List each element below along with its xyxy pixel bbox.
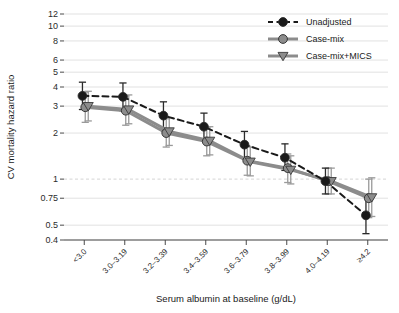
data-point-marker xyxy=(362,211,371,220)
y-tick-label: 3 xyxy=(53,101,58,111)
data-point-marker xyxy=(119,92,128,101)
y-tick-label: 8 xyxy=(53,36,58,46)
y-tick-label: 0.4 xyxy=(45,235,58,245)
data-point-marker xyxy=(240,140,249,149)
data-point-marker xyxy=(279,35,288,44)
data-point-marker xyxy=(281,153,290,162)
y-tick-label: 0.5 xyxy=(45,220,58,230)
legend-label: Case-mix xyxy=(306,34,345,44)
y-tick-label: 2 xyxy=(53,128,58,138)
data-point-marker xyxy=(321,177,330,186)
legend-item[interactable]: Case-mix+MICS xyxy=(268,51,372,61)
y-tick-label: 10 xyxy=(48,21,58,31)
legend-label: Unadjusted xyxy=(306,17,352,27)
data-point-marker xyxy=(78,91,87,100)
y-tick-label: 6 xyxy=(53,55,58,65)
y-tick-label: 4 xyxy=(53,82,58,92)
y-tick-label: 0.75 xyxy=(40,193,58,203)
legend-item[interactable]: Unadjusted xyxy=(268,17,352,27)
x-axis-title: Serum albumin at baseline (g/dL) xyxy=(156,293,296,304)
chart-background xyxy=(0,0,399,313)
y-tick-label: 5 xyxy=(53,67,58,77)
chart-canvas: 121086543210.750.50.4 <3.03.0–3.193.2–3.… xyxy=(0,0,399,313)
y-tick-label: 1 xyxy=(53,174,58,184)
legend-label: Case-mix+MICS xyxy=(306,51,372,61)
data-point-marker xyxy=(200,122,209,131)
y-tick-label: 12 xyxy=(48,9,58,19)
y-axis-title: CV mortality hazard ratio xyxy=(5,75,16,180)
data-point-marker xyxy=(279,18,288,27)
cv-mortality-hazard-ratio-chart: 121086543210.750.50.4 <3.03.0–3.193.2–3.… xyxy=(0,0,399,313)
data-point-marker xyxy=(159,111,168,120)
